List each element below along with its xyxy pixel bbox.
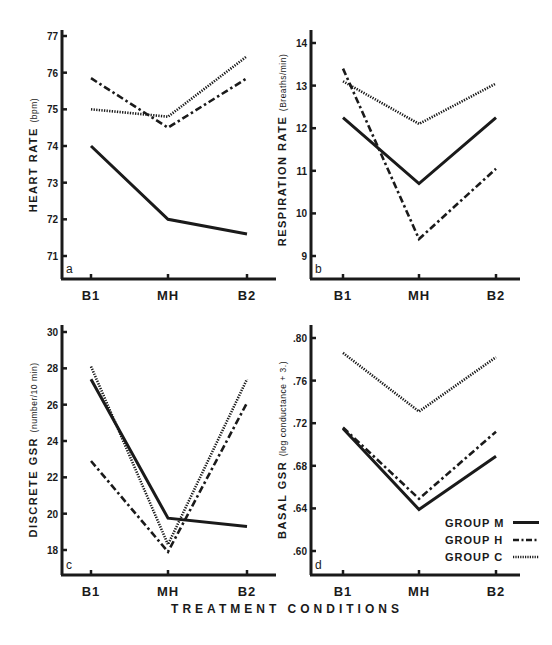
y-tick-label: 74: [47, 141, 59, 152]
series-line-group-h: [91, 78, 247, 128]
panel-letter: d: [315, 558, 322, 572]
y-axis-label: DISCRETE GSR (number/10 min): [27, 363, 39, 538]
panel-letter: a: [66, 262, 73, 276]
series-line-group-m: [91, 379, 247, 526]
series-line-group-m: [343, 429, 496, 510]
legend-label: GROUP M: [445, 517, 511, 529]
y-tick-label: 13: [296, 81, 308, 92]
series-line-group-m: [343, 118, 496, 184]
series-line-group-c: [343, 353, 496, 412]
y-axis-label: BASAL GSR (log conductance + 3.): [276, 361, 288, 539]
series-line-group-m: [91, 146, 247, 234]
legend-label: GROUP H: [445, 534, 511, 546]
dotted-line-swatch-icon: [513, 555, 539, 559]
y-tick-label: 30: [47, 327, 59, 338]
y-tick-label: 71: [47, 251, 59, 262]
x-category-label: B1: [334, 584, 353, 599]
y-tick-label: 75: [47, 104, 59, 115]
dashdot-line-swatch-icon: [513, 538, 539, 542]
x-category-label: MH: [157, 584, 179, 599]
x-category-label: B1: [82, 288, 101, 303]
y-axis-label: RESPIRATION RATE (Breaths/min): [276, 54, 288, 247]
panel-letter: c: [66, 558, 72, 572]
y-tick-label: 22: [47, 472, 59, 483]
y-tick-label: 72: [47, 214, 59, 225]
panel-letter: b: [315, 262, 322, 276]
series-line-group-c: [91, 56, 247, 116]
y-tick-label: .76: [293, 376, 307, 387]
series-line-group-h: [343, 428, 496, 499]
y-tick-label: 11: [296, 166, 307, 177]
y-tick-label: 9: [301, 251, 307, 262]
y-tick-label: 28: [47, 363, 59, 374]
legend-item-group-c: GROUP C: [445, 548, 539, 565]
y-tick-label: .80: [293, 333, 307, 344]
x-category-label: MH: [408, 584, 430, 599]
x-category-label: MH: [157, 288, 179, 303]
y-tick-label: 77: [47, 31, 59, 42]
x-category-label: B2: [487, 584, 506, 599]
x-category-label: B1: [82, 584, 101, 599]
y-tick-label: 76: [47, 68, 59, 79]
y-tick-label: .68: [293, 461, 307, 472]
y-tick-label: 24: [47, 436, 59, 447]
solid-line-swatch-icon: [513, 521, 539, 524]
y-tick-label: .60: [293, 546, 307, 557]
y-tick-label: 12: [296, 123, 308, 134]
y-tick-label: 10: [296, 208, 308, 219]
y-tick-label: 20: [47, 509, 59, 520]
x-axis-title: TREATMENT CONDITIONS: [0, 602, 552, 616]
y-tick-label: .64: [293, 503, 307, 514]
y-tick-label: .72: [293, 418, 307, 429]
x-category-label: B2: [238, 584, 257, 599]
y-axis-label: HEART RATE (bpm): [27, 98, 39, 212]
y-tick-label: 18: [47, 545, 59, 556]
x-category-label: MH: [408, 288, 430, 303]
legend-label: GROUP C: [445, 551, 511, 563]
x-category-label: B2: [487, 288, 506, 303]
x-category-label: B2: [238, 288, 257, 303]
legend-item-group-m: GROUP M: [445, 514, 539, 531]
legend-item-group-h: GROUP H: [445, 531, 539, 548]
series-line-group-c: [343, 81, 496, 124]
y-tick-label: 73: [47, 178, 59, 189]
legend: GROUP M GROUP H GROUP C: [445, 514, 539, 565]
x-category-label: B1: [334, 288, 353, 303]
y-tick-label: 14: [296, 38, 308, 49]
y-tick-label: 26: [47, 400, 59, 411]
